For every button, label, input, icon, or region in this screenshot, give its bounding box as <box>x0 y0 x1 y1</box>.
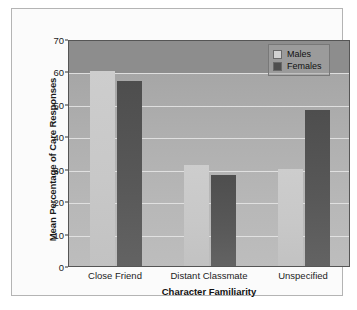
x-tick-label: Distant Classmate <box>170 270 247 281</box>
bar-females-0 <box>117 81 142 266</box>
y-tick-label: 50 <box>38 99 64 110</box>
legend-swatch-males-icon <box>273 50 282 59</box>
legend-item-males: Males <box>273 48 322 60</box>
bar-males-0 <box>90 71 115 266</box>
legend-item-females: Females <box>273 60 322 72</box>
y-tick-label: 40 <box>38 132 64 143</box>
y-tick-label: 30 <box>38 164 64 175</box>
bar-males-1 <box>184 165 209 266</box>
legend: Males Females <box>268 44 330 76</box>
bar-females-2 <box>305 110 330 266</box>
y-tick-label: 60 <box>38 67 64 78</box>
bar-females-1 <box>211 175 236 266</box>
x-tick-label: Close Friend <box>88 270 142 281</box>
plot-area: Males Females <box>68 40 350 267</box>
legend-label-females: Females <box>287 61 322 71</box>
legend-label-males: Males <box>287 49 311 59</box>
figure-frame: Mean Percentage of Care Responses 010203… <box>11 8 343 296</box>
y-tick-label: 70 <box>38 35 64 46</box>
y-tick-label: 20 <box>38 197 64 208</box>
y-tick-label: 10 <box>38 229 64 240</box>
y-tick-label: 0 <box>38 262 64 273</box>
x-axis-tick-labels: Close FriendDistant ClassmateUnspecified <box>68 270 350 284</box>
x-axis-title: Character Familiarity <box>68 286 350 297</box>
x-tick-label: Unspecified <box>278 270 328 281</box>
y-axis-ticks: 010203040506070 <box>36 40 64 267</box>
bar-males-2 <box>278 169 303 266</box>
legend-swatch-females-icon <box>273 62 282 71</box>
figure: Mean Percentage of Care Responses 010203… <box>0 0 357 310</box>
